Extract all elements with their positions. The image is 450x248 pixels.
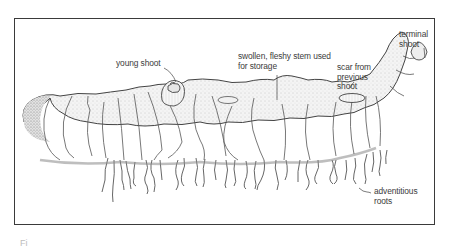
- label-scar-from-previous-shoot: scar from previous shoot: [337, 63, 371, 92]
- label-adventitious-roots: adventitious roots: [374, 187, 418, 206]
- label-young-shoot: young shoot: [116, 59, 161, 69]
- shoot-scar: [339, 94, 365, 103]
- figure-caption-cropped: Fi: [20, 238, 28, 248]
- label-terminal-shoot: terminal shoot: [399, 30, 428, 49]
- leader-adventitious-roots: [359, 188, 371, 193]
- label-swollen-stem: swollen, fleshy stem used for storage: [238, 52, 331, 71]
- leader-young-shoot: [164, 68, 176, 82]
